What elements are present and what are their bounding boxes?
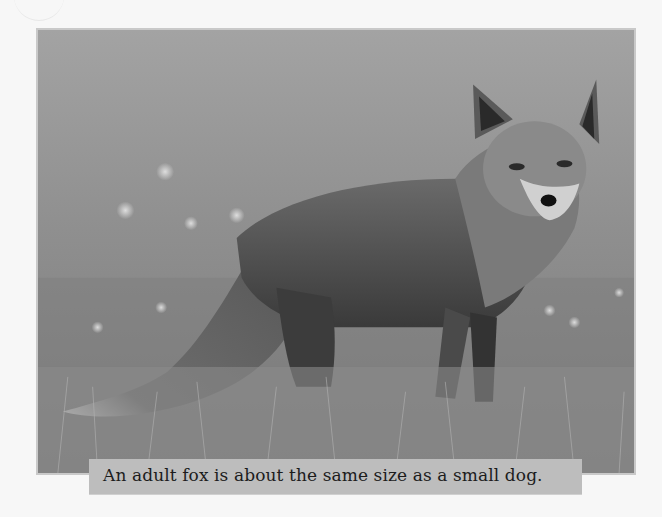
caption-box: An adult fox is about the same size as a… [89,459,582,495]
page-corner-mark [14,0,64,21]
caption-text: An adult fox is about the same size as a… [103,465,543,485]
fox-illustration [38,30,634,473]
fox-photo [36,28,636,475]
